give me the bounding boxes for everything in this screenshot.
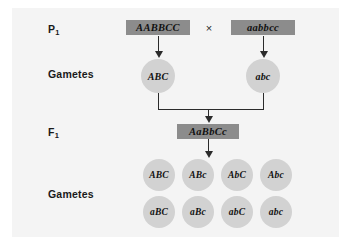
- connector-bracket-left-stem: [158, 93, 159, 110]
- arrow-head-parent-right: [260, 51, 268, 58]
- gamete-circle-f1: ABC: [143, 159, 175, 191]
- connector-line-parent-right: [263, 36, 264, 52]
- arrow-head-to-f1: [205, 116, 213, 123]
- gamete-circle-f1: ABc: [182, 159, 214, 191]
- diagram-panel: [12, 8, 339, 237]
- gamete-circle-f1: aBC: [143, 196, 175, 228]
- arrow-head-parent-left: [155, 51, 163, 58]
- genotype-box-parent-right: aabbcc: [231, 20, 295, 35]
- arrow-head-f1-gametes: [205, 151, 213, 158]
- gamete-circle-parent-left: ABC: [141, 59, 175, 93]
- gamete-circle-f1: aBc: [182, 196, 214, 228]
- row-label-f1-text: F: [48, 126, 55, 138]
- connector-bracket-crossbar: [158, 109, 264, 110]
- gamete-circle-f1: abC: [221, 196, 253, 228]
- row-label-gametes-parental: Gametes: [48, 68, 94, 80]
- connector-bracket-right-stem: [263, 93, 264, 110]
- row-label-p1-subscript: 1: [55, 28, 59, 37]
- row-label-gametes-f1: Gametes: [48, 188, 94, 200]
- connector-line-parent-left: [158, 36, 159, 52]
- row-label-f1: F1: [48, 126, 59, 138]
- row-label-p1: P1: [48, 23, 60, 35]
- genotype-box-parent-left: AABBCC: [126, 20, 190, 35]
- genotype-box-f1: AaBbCc: [177, 124, 239, 139]
- gamete-circle-f1: Abc: [260, 159, 292, 191]
- gamete-circle-f1: AbC: [221, 159, 253, 191]
- genetics-cross-diagram: P1 Gametes F1 Gametes AABBCC × aabbcc AB…: [0, 0, 351, 252]
- row-label-f1-subscript: 1: [55, 131, 59, 140]
- gamete-circle-f1: abc: [260, 196, 292, 228]
- cross-symbol: ×: [198, 20, 220, 35]
- gamete-circle-parent-right: abc: [246, 59, 280, 93]
